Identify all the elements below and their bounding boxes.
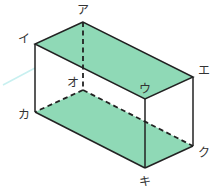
vertex-label-ki: キ: [139, 175, 151, 189]
vertex-label-u: ウ: [139, 82, 151, 96]
vertex-label-a: ア: [77, 3, 89, 17]
vertex-label-ka: カ: [18, 108, 30, 122]
vertex-label-o: オ: [67, 76, 79, 90]
vertex-label-e: エ: [198, 64, 210, 78]
guide-line: [3, 68, 35, 85]
prism-diagram: ア イ ウ エ オ カ キ ク: [0, 0, 215, 195]
vertex-label-i: イ: [18, 32, 30, 46]
vertex-label-ku: ク: [198, 146, 210, 160]
